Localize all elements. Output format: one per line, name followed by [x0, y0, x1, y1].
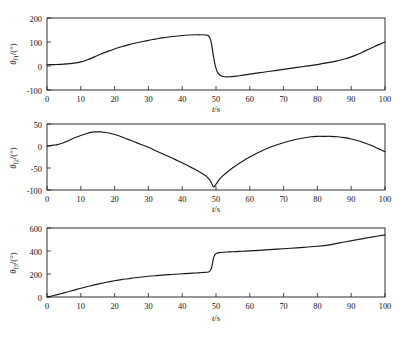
chart-3-yticklabels: 600 400 200 0	[29, 225, 42, 303]
x-tick-label: 80	[313, 195, 321, 204]
chart-panel-3: 600 400 200 0 0 10 20 30 40 50 60 70 80 …	[0, 217, 401, 338]
x-tick-label: 100	[379, 95, 392, 104]
x-tick-label: 60	[246, 302, 254, 311]
x-tick-label: 30	[144, 195, 152, 204]
x-tick-label: 70	[279, 95, 287, 104]
chart-2-tick-marks	[47, 124, 385, 190]
x-tick-label: 50	[212, 195, 220, 204]
y-tick-label: 0	[38, 294, 42, 303]
chart-3-x-axis-title: t/s	[212, 313, 221, 323]
chart-panel-1: 200 100 0 -100 0 10 20 30 40 50 60 70 80…	[0, 0, 401, 114]
chart-2-y-axis-title: θf2/(°)	[8, 147, 19, 168]
figure-three-panel-line-charts: 200 100 0 -100 0 10 20 30 40 50 60 70 80…	[0, 0, 401, 338]
chart-2-xticklabels: 0 10 20 30 40 50 60 70 80 90 100	[45, 195, 391, 204]
x-tick-label: 90	[347, 195, 355, 204]
x-tick-label: 30	[144, 95, 152, 104]
x-tick-label: 0	[45, 95, 49, 104]
x-tick-label: 100	[379, 302, 392, 311]
x-tick-label: 70	[279, 195, 287, 204]
y-tick-label: 200	[29, 15, 42, 24]
y-tick-label: -100	[27, 187, 42, 196]
x-tick-label: 10	[77, 95, 85, 104]
chart-3-svg: 600 400 200 0 0 10 20 30 40 50 60 70 80 …	[0, 217, 401, 338]
x-tick-label: 0	[45, 195, 49, 204]
y-tick-label: 400	[29, 248, 42, 257]
x-tick-label: 20	[110, 302, 118, 311]
y-tick-label: 0	[38, 63, 42, 72]
x-tick-label: 80	[313, 95, 321, 104]
y-tick-label: 200	[29, 271, 42, 280]
x-tick-label: 90	[347, 302, 355, 311]
y-tick-label: 50	[34, 121, 42, 130]
x-tick-label: 90	[347, 95, 355, 104]
x-tick-label: 30	[144, 302, 152, 311]
chart-2-yticklabels: 50 0 -50 -100	[27, 121, 42, 196]
chart-3-y-axis-title: θf3/(°)	[8, 252, 19, 273]
chart-3-tick-marks	[47, 228, 385, 297]
chart-1-tick-marks	[47, 18, 385, 90]
x-tick-label: 50	[212, 95, 220, 104]
chart-1-yticklabels: 200 100 0 -100	[27, 15, 42, 96]
x-tick-label: 100	[379, 195, 392, 204]
y-tick-label: -50	[31, 165, 42, 174]
chart-3-data-line	[47, 235, 385, 297]
chart-1-x-axis-title: t/s	[212, 104, 221, 114]
chart-1-frame	[47, 18, 385, 90]
chart-2-data-line	[47, 132, 385, 187]
chart-1-xticklabels: 0 10 20 30 40 50 60 70 80 90 100	[45, 95, 391, 104]
chart-2-frame	[47, 124, 385, 190]
y-tick-label: 0	[38, 143, 42, 152]
x-tick-label: 80	[313, 302, 321, 311]
chart-2-x-axis-title: t/s	[212, 204, 221, 214]
x-tick-label: 40	[178, 302, 186, 311]
x-tick-label: 60	[246, 95, 254, 104]
x-tick-label: 20	[110, 195, 118, 204]
x-tick-label: 10	[77, 195, 85, 204]
chart-1-data-line	[47, 35, 385, 77]
y-tick-label: 100	[29, 39, 42, 48]
x-tick-label: 20	[110, 95, 118, 104]
x-tick-label: 40	[178, 95, 186, 104]
chart-3-frame	[47, 228, 385, 297]
chart-3-xticklabels: 0 10 20 30 40 50 60 70 80 90 100	[45, 302, 391, 311]
x-tick-label: 60	[246, 195, 254, 204]
chart-1-svg: 200 100 0 -100 0 10 20 30 40 50 60 70 80…	[0, 0, 401, 114]
chart-1-y-axis-title: θf1/(°)	[8, 43, 19, 64]
chart-2-svg: 50 0 -50 -100 0 10 20 30 40 50 60 70 80 …	[0, 114, 401, 217]
x-tick-label: 70	[279, 302, 287, 311]
x-tick-label: 50	[212, 302, 220, 311]
y-tick-label: 600	[29, 225, 42, 234]
x-tick-label: 40	[178, 195, 186, 204]
x-tick-label: 0	[45, 302, 49, 311]
y-tick-label: -100	[27, 87, 42, 96]
x-tick-label: 10	[77, 302, 85, 311]
chart-panel-2: 50 0 -50 -100 0 10 20 30 40 50 60 70 80 …	[0, 114, 401, 217]
